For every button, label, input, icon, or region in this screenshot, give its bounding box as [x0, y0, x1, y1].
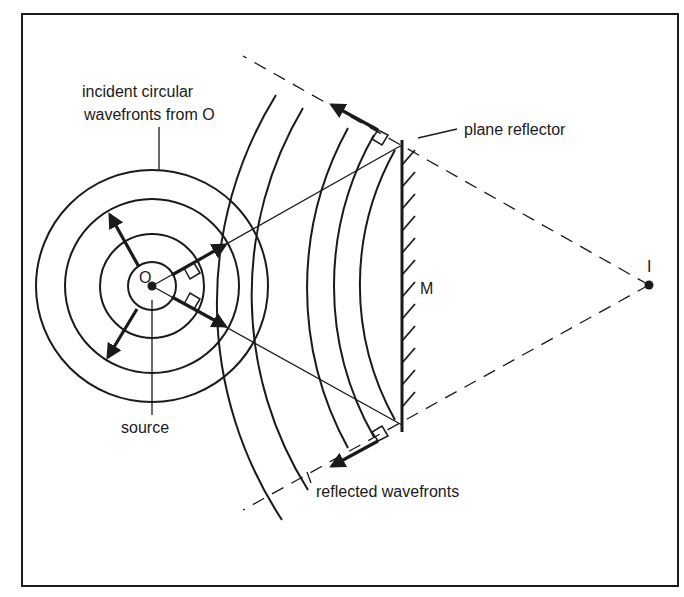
arrow-up-left [110, 215, 139, 267]
arrow-down-left [108, 309, 137, 357]
label-plane-reflector: plane reflector [464, 121, 566, 138]
arrow-reflected-bottom [332, 441, 378, 466]
label-m: M [420, 280, 433, 297]
incident-rays [152, 145, 402, 425]
right-angle-markers [184, 130, 388, 441]
arrow-reflected-top [332, 105, 378, 130]
label-incident-line2: wavefronts from O [83, 106, 215, 123]
label-o: O [139, 269, 151, 286]
image-point-i [645, 281, 654, 290]
plane-mirror [402, 140, 415, 432]
wave-reflection-diagram: incident circular wavefronts from O sour… [0, 0, 684, 597]
virtual-rays [243, 56, 649, 510]
label-reflected: reflected wavefronts [316, 483, 459, 500]
reflected-wavefronts [217, 95, 395, 520]
label-source: source [121, 419, 169, 436]
label-incident-line1: incident circular [82, 83, 194, 100]
label-i: I [647, 258, 651, 275]
